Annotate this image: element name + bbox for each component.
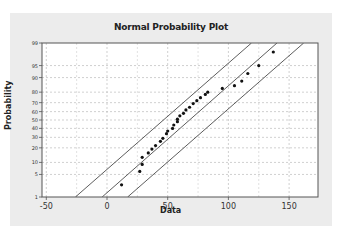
- data-point: [176, 118, 179, 121]
- y-tick-label: 10: [32, 159, 38, 165]
- plot-area: -50050100150151020304050607080909599: [0, 0, 342, 233]
- data-point: [246, 72, 249, 75]
- y-tick-label: 5: [35, 171, 38, 177]
- data-point: [138, 170, 141, 173]
- data-point: [206, 91, 209, 94]
- data-point: [184, 108, 187, 111]
- data-point: [154, 144, 157, 147]
- data-point: [166, 129, 169, 132]
- y-tick-label: 30: [32, 134, 38, 140]
- data-point: [120, 183, 123, 186]
- data-point: [161, 137, 164, 140]
- data-point: [141, 156, 144, 159]
- data-point: [150, 147, 153, 150]
- data-point: [171, 127, 174, 130]
- data-point: [195, 99, 198, 102]
- data-point: [192, 102, 195, 105]
- data-point: [257, 64, 260, 67]
- data-point: [240, 80, 243, 83]
- data-point: [182, 112, 185, 115]
- data-point: [233, 84, 236, 87]
- x-axis-label: Data: [160, 206, 181, 215]
- y-tick-label: 90: [32, 75, 38, 81]
- data-point: [204, 93, 207, 96]
- data-point: [188, 106, 191, 109]
- y-tick-label: 60: [32, 109, 38, 115]
- data-point: [172, 123, 175, 126]
- y-tick-label: 99: [32, 40, 38, 46]
- x-tick-label: 150: [281, 202, 296, 211]
- y-tick-label: 50: [32, 117, 38, 123]
- x-tick-label: 0: [104, 202, 109, 211]
- y-tick-label: 70: [32, 100, 38, 106]
- y-tick-label: 1: [35, 194, 38, 200]
- y-tick-label: 40: [32, 125, 38, 131]
- data-point: [159, 140, 162, 143]
- data-point: [199, 96, 202, 99]
- data-point: [178, 114, 181, 117]
- data-point: [141, 163, 144, 166]
- data-point: [221, 87, 224, 90]
- y-tick-label: 95: [32, 63, 38, 69]
- y-axis-label: Probability: [4, 81, 13, 130]
- y-tick-label: 20: [32, 145, 38, 151]
- x-tick-label: -50: [40, 202, 53, 211]
- data-point: [147, 151, 150, 154]
- x-tick-label: 100: [221, 202, 236, 211]
- y-tick-label: 80: [32, 89, 38, 95]
- data-point: [272, 50, 275, 53]
